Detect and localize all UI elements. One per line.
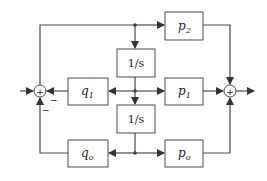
block-diagram: + − − + p2 1/s q1 p1 1/s qo po [0, 0, 267, 181]
block-integrator-top: 1/s [117, 49, 155, 77]
block-qo: qo [68, 140, 108, 167]
block-po: po [165, 140, 203, 167]
svg-text:1/s: 1/s [128, 113, 145, 126]
summer-right: + [224, 85, 236, 97]
summer-right-symbol: + [226, 87, 234, 97]
summer-left: + [34, 85, 46, 97]
po-to-summer [203, 98, 230, 153]
block-integrator-bottom: 1/s [117, 105, 155, 133]
block-p1: p1 [165, 78, 203, 105]
summer-left-sign-bottom: − [42, 105, 50, 115]
p2-to-summer-line [203, 25, 230, 84]
block-q1: q1 [68, 78, 108, 105]
summer-left-symbol: + [36, 87, 44, 97]
svg-text:1/s: 1/s [128, 57, 145, 70]
block-p2: p2 [165, 12, 203, 40]
summer-left-sign-right: − [50, 95, 58, 105]
